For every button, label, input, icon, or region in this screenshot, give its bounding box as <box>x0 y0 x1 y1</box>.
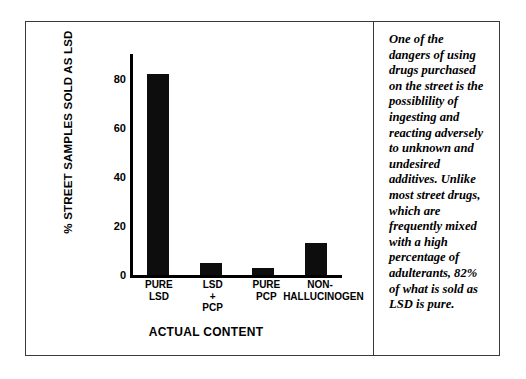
y-axis-tick-labels: 020406080 <box>98 22 126 355</box>
x-axis-tick-label: LSD+PCP <box>186 279 240 314</box>
x-axis-tick-label-line: PCP <box>186 302 240 314</box>
bar <box>147 74 169 275</box>
y-axis-tick-label: 0 <box>100 269 126 281</box>
bar <box>200 263 222 275</box>
x-axis-tick-label-line: + <box>186 291 240 303</box>
y-axis-title: % STREET SAMPLES SOLD AS LSD <box>62 17 74 247</box>
y-axis-tick-label: 20 <box>100 220 126 232</box>
bar-chart: % STREET SAMPLES SOLD AS LSD 020406080 P… <box>26 22 374 355</box>
x-axis-tick-labels: PURELSDLSD+PCPPUREPCPNON-HALLUCINOGEN <box>132 279 347 325</box>
x-axis-tick-label-line: LSD <box>186 279 240 291</box>
y-axis-tick-label: 80 <box>100 73 126 85</box>
bar-series <box>132 22 342 277</box>
x-axis-tick-label-line: HALLUCINOGEN <box>283 291 357 303</box>
x-axis-title: ACTUAL CONTENT <box>86 325 326 339</box>
x-axis-tick-label-line: LSD <box>132 291 186 303</box>
x-axis-tick-label-line: PURE <box>132 279 186 291</box>
figure-container: % STREET SAMPLES SOLD AS LSD 020406080 P… <box>25 21 500 356</box>
bar <box>305 243 327 275</box>
y-axis-tick-label: 60 <box>100 122 126 134</box>
x-axis-tick-label: PURELSD <box>132 279 186 302</box>
y-axis-tick-label: 40 <box>100 171 126 183</box>
x-axis-tick-label: NON-HALLUCINOGEN <box>283 279 357 302</box>
figure-caption: One of the dangers of using drugs purcha… <box>389 32 485 313</box>
chart-panel: % STREET SAMPLES SOLD AS LSD 020406080 P… <box>26 22 374 355</box>
x-axis-tick-label-line: NON- <box>283 279 357 291</box>
caption-panel: One of the dangers of using drugs purcha… <box>374 22 499 355</box>
bar <box>252 268 274 275</box>
